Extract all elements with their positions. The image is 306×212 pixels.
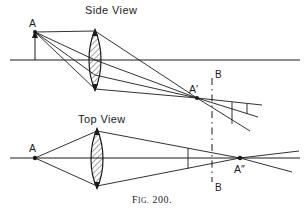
top-view-group xyxy=(10,127,300,190)
side-view-ray-out-lower-2 xyxy=(95,75,197,98)
side-view-object-label: A xyxy=(29,18,36,29)
top-view-lens xyxy=(91,129,103,188)
bb-plane-bottom-label: B xyxy=(215,183,222,193)
top-view-image-point-dot xyxy=(238,156,242,160)
side-view-lens xyxy=(89,30,101,90)
side-view-group xyxy=(10,28,300,131)
top-view-object-point-dot xyxy=(33,156,37,160)
top-view-ray-out-upper xyxy=(97,131,240,158)
side-view-image-point-dot xyxy=(195,96,199,100)
top-view-object-label: A xyxy=(29,143,36,154)
side-view-ray-out-middle xyxy=(95,60,197,98)
figure-caption-smallcaps: IG. xyxy=(138,196,149,205)
top-view-ray-upper xyxy=(35,131,97,158)
side-view-ray-out-upper xyxy=(95,31,197,98)
side-view-title: Side View xyxy=(85,5,137,16)
figure-caption-number: 200. xyxy=(149,194,172,205)
side-view-image-label: A′ xyxy=(189,84,198,95)
side-view-ray-middle xyxy=(35,32,95,60)
side-view-ray-upper xyxy=(35,31,95,32)
side-view-ray-lower-2 xyxy=(35,32,95,75)
side-view-lens-bottom-tip xyxy=(92,84,98,92)
figure-caption: FIG. 200. xyxy=(132,194,172,205)
bb-plane-top-label: B xyxy=(215,70,222,80)
side-view-object-point-dot xyxy=(33,30,37,34)
optical-ray-diagram-figure: Side View A A′ Top View A A″ B B FIG. 20… xyxy=(0,0,306,212)
top-view-image-label: A″ xyxy=(234,164,245,175)
top-view-diverging-ray-1 xyxy=(240,151,299,158)
ray-diagram-canvas xyxy=(0,0,306,212)
top-view-diverging-ray-2 xyxy=(240,158,292,172)
top-view-ray-lower xyxy=(35,158,97,186)
side-view-ray-out-lower xyxy=(95,89,197,98)
top-view-title: Top View xyxy=(78,114,126,125)
